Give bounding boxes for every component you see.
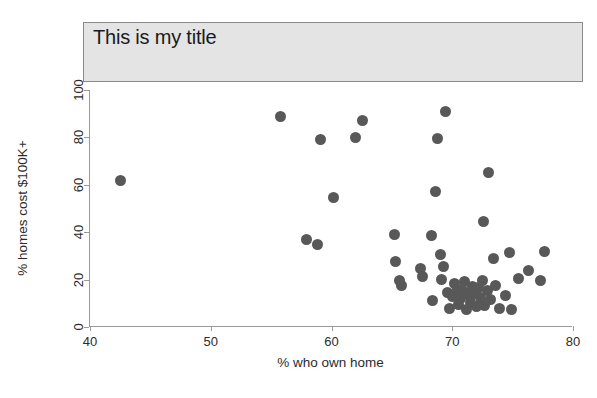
- data-point: [275, 111, 286, 122]
- data-point: [427, 295, 438, 306]
- y-tick-label: 60: [71, 178, 86, 192]
- plot-area: 020406080100 4050607080: [89, 90, 572, 327]
- data-point: [478, 216, 489, 227]
- y-axis-label: % homes cost $100K+: [15, 140, 30, 275]
- data-point: [430, 186, 441, 197]
- data-point: [396, 280, 407, 291]
- data-point: [389, 229, 400, 240]
- data-point: [506, 304, 517, 315]
- data-point: [440, 106, 451, 117]
- x-tick-mark: [452, 326, 453, 331]
- y-tick-label: 80: [71, 130, 86, 144]
- data-point: [488, 253, 499, 264]
- y-tick-label: 20: [71, 272, 86, 286]
- x-tick-mark: [211, 326, 212, 331]
- x-tick-mark: [332, 326, 333, 331]
- x-tick-label: 80: [566, 334, 580, 349]
- page-title: This is my title: [93, 24, 323, 51]
- y-tick-label: 0: [71, 323, 86, 330]
- data-point: [500, 290, 511, 301]
- data-point: [539, 246, 550, 257]
- data-point: [312, 239, 323, 250]
- y-tick-label: 40: [71, 225, 86, 239]
- chart-title-box: This is my title: [83, 22, 583, 82]
- data-point: [301, 234, 312, 245]
- data-point: [483, 167, 494, 178]
- data-point: [535, 275, 546, 286]
- x-axis-label: % who own home: [89, 355, 572, 370]
- data-point: [357, 115, 368, 126]
- data-point: [328, 192, 339, 203]
- x-tick-label: 40: [83, 334, 97, 349]
- data-point: [417, 271, 428, 282]
- x-tick-mark: [90, 326, 91, 331]
- data-point: [436, 274, 447, 285]
- data-point: [350, 132, 361, 143]
- x-tick-mark: [573, 326, 574, 331]
- data-point: [504, 247, 515, 258]
- x-tick-label: 50: [204, 334, 218, 349]
- data-point: [432, 133, 443, 144]
- scatter-plot-figure: This is my title 020406080100 4050607080…: [0, 0, 597, 398]
- x-tick-label: 70: [445, 334, 459, 349]
- data-point: [494, 303, 505, 314]
- data-points-layer: [90, 90, 572, 326]
- data-point: [438, 261, 449, 272]
- data-point: [523, 265, 534, 276]
- data-point: [390, 256, 401, 267]
- y-tick-label: 100: [71, 79, 86, 101]
- data-point: [435, 249, 446, 260]
- data-point: [315, 134, 326, 145]
- x-tick-label: 60: [324, 334, 338, 349]
- data-point: [513, 273, 524, 284]
- data-point: [490, 280, 501, 291]
- data-point: [426, 230, 437, 241]
- data-point: [115, 175, 126, 186]
